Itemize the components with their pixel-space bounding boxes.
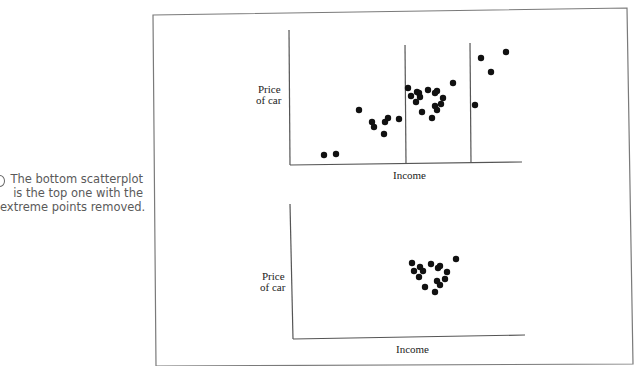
- data-point: [419, 109, 425, 115]
- data-point: [453, 256, 459, 262]
- figure-canvas: Price of car Income Price of car Income: [0, 0, 639, 366]
- top-y-axis: [289, 30, 290, 165]
- data-point: [371, 124, 377, 130]
- top-x-label: Income: [393, 169, 426, 181]
- data-point: [428, 261, 434, 267]
- data-point: [442, 276, 448, 282]
- data-point: [422, 284, 428, 290]
- data-point: [356, 107, 362, 113]
- data-point: [413, 99, 419, 105]
- data-point: [488, 69, 494, 75]
- top-points: [321, 49, 509, 158]
- data-point: [396, 116, 402, 122]
- data-point: [409, 260, 415, 266]
- data-point: [503, 49, 509, 55]
- bottom-points: [409, 256, 459, 295]
- data-point: [450, 80, 456, 86]
- data-point: [321, 152, 327, 158]
- data-point: [385, 115, 391, 121]
- data-point: [381, 131, 387, 137]
- data-point: [417, 94, 423, 100]
- bottom-x-label: Income: [396, 343, 429, 355]
- data-point: [444, 269, 450, 275]
- data-point: [333, 151, 339, 157]
- top-y-label-line2: of car: [256, 94, 282, 106]
- data-point: [438, 101, 444, 107]
- data-point: [416, 274, 422, 280]
- data-point: [440, 95, 446, 101]
- top-scatterplot: Price of car Income: [256, 30, 522, 181]
- data-point: [429, 115, 435, 121]
- data-point: [420, 268, 426, 274]
- data-point: [437, 263, 443, 269]
- bottom-x-axis: [293, 335, 525, 339]
- data-point: [432, 289, 438, 295]
- data-point: [408, 93, 414, 99]
- data-point: [405, 85, 411, 91]
- bottom-y-label-line2: of car: [260, 281, 286, 293]
- data-point: [425, 87, 431, 93]
- data-point: [437, 282, 443, 288]
- data-point: [472, 102, 478, 108]
- bottom-scatterplot: Price of car Income: [260, 204, 525, 355]
- top-divider-2: [470, 43, 471, 163]
- data-point: [434, 88, 440, 94]
- top-divider-1: [405, 45, 406, 164]
- data-point: [478, 55, 484, 61]
- data-point: [411, 268, 417, 274]
- figure-frame: [153, 8, 633, 366]
- data-point: [434, 107, 440, 113]
- bottom-y-axis: [290, 204, 293, 339]
